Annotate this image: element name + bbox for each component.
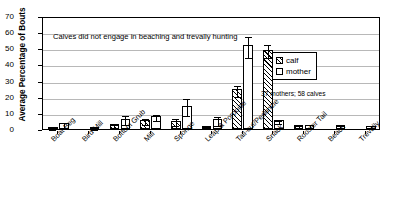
- error-bar-cap: [295, 126, 302, 127]
- legend-label-calf: calf: [286, 56, 298, 65]
- chart-figure: Average Percentage of Bouts 010203040506…: [0, 0, 396, 204]
- x-tick-label: Mill: [142, 129, 156, 143]
- error-bar-cap: [142, 119, 149, 120]
- error-bar-cap: [183, 116, 190, 117]
- y-tick-label: 70: [0, 13, 14, 21]
- error-bar-cap: [183, 99, 190, 100]
- error-bar-cap: [111, 125, 118, 126]
- error-bar-cap: [245, 58, 252, 59]
- y-tick-label: 60: [0, 29, 14, 37]
- chart-legend: calf mother: [272, 52, 317, 80]
- error-bar-cap: [172, 119, 179, 120]
- legend-swatch-mother-icon: [276, 68, 283, 75]
- error-bar-cap: [153, 115, 160, 116]
- y-tick-label: 0: [0, 126, 14, 134]
- error-bar-cap: [142, 125, 149, 126]
- x-axis-tick-labels: Boat BegBird MillBottom GrubMillSpongeLe…: [42, 131, 380, 203]
- legend-swatch-calf-icon: [276, 57, 283, 64]
- bar-group: [325, 18, 346, 129]
- error-bar-cap: [122, 116, 129, 117]
- sample-size-annotation: 37 mothers; 58 calves: [261, 90, 326, 97]
- legend-item-calf: calf: [276, 55, 311, 66]
- error-bar: [187, 99, 188, 117]
- y-tick-label: 20: [0, 94, 14, 102]
- y-axis-title: Average Percentage of Bouts: [18, 5, 27, 125]
- y-tick-label: 50: [0, 45, 14, 53]
- bar-group: [355, 18, 376, 129]
- error-bar-cap: [111, 128, 118, 129]
- legend-label-mother: mother: [286, 67, 311, 76]
- y-tick-label: 30: [0, 78, 14, 86]
- plot-annotation-note: Calves did not engage in beaching and tr…: [53, 32, 283, 43]
- error-bar-cap: [203, 127, 210, 128]
- y-tick-label: 10: [0, 110, 14, 118]
- error-bar-cap: [264, 45, 271, 46]
- y-tick-label: 40: [0, 61, 14, 69]
- error-bar: [176, 119, 177, 126]
- error-bar-cap: [153, 121, 160, 122]
- error-bar: [237, 86, 238, 96]
- error-bar: [268, 45, 269, 58]
- error-bar-cap: [234, 97, 241, 98]
- error-bar-cap: [214, 117, 221, 118]
- error-bar-cap: [234, 86, 241, 87]
- legend-item-mother: mother: [276, 66, 311, 77]
- error-bar-cap: [264, 58, 271, 59]
- plot-area: Calves did not engage in beaching and tr…: [42, 17, 380, 130]
- error-bar-cap: [172, 126, 179, 127]
